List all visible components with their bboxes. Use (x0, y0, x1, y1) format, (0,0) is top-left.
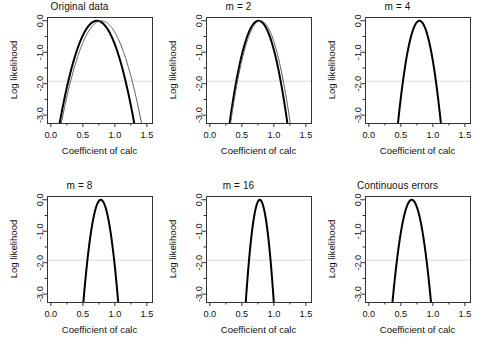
x-tick-label: 1.5 (458, 309, 471, 319)
x-axis-label: Coefficient of calc (221, 145, 297, 156)
loglik-curve (58, 21, 137, 130)
plot-top-spacer (318, 179, 477, 196)
x-axis-label: Coefficient of calc (62, 324, 138, 335)
y-axis: 0.0-1.0-2.0-3.0 (35, 14, 47, 123)
plot-panel: m = 40.00.51.01.50.0-1.0-2.0-3.00.00.51.… (318, 0, 477, 179)
x-tick-label: 1.0 (426, 130, 439, 140)
loglik-curve (397, 21, 442, 130)
x-tick-label: 1.0 (108, 130, 121, 140)
y-tick-label: 0.0 (194, 14, 204, 27)
x-axis-label: Coefficient of calc (221, 324, 297, 335)
y-axis-label: Log likelihood (167, 220, 178, 279)
x-tick-label: 0.0 (203, 130, 216, 140)
y-axis-label: Log likelihood (167, 41, 178, 100)
plot-panel: Original data0.00.51.01.50.0-1.0-2.0-3.0… (0, 0, 159, 179)
plot-top-spacer (318, 0, 477, 17)
x-tick-label: 0.0 (362, 130, 375, 140)
x-tick-label: 0.5 (76, 309, 89, 319)
x-tick-label: 1.5 (140, 130, 153, 140)
y-axis: 0.0-1.0-2.0-3.0 (353, 14, 365, 123)
y-tick-label: 0.0 (194, 193, 204, 206)
plot-panel: m = 80.00.51.01.50.0-1.0-2.0-3.00.00.51.… (0, 179, 159, 359)
y-tick-label: -3.0 (35, 107, 45, 123)
x-tick-label: 1.5 (299, 130, 312, 140)
x-tick-label: 0.5 (235, 130, 248, 140)
panel-plot: 0.00.51.01.50.0-1.0-2.0-3.00.00.51.01.5C… (0, 0, 159, 179)
x-tick-label: 1.0 (426, 309, 439, 319)
panel-plot: 0.00.51.01.50.0-1.0-2.0-3.00.00.51.01.5C… (0, 179, 159, 358)
x-tick-label: 1.5 (140, 309, 153, 319)
x-tick-label: 1.0 (108, 309, 121, 319)
y-tick-label: -1.0 (35, 44, 45, 60)
plot-panel: m = 20.00.51.01.50.0-1.0-2.0-3.00.00.51.… (159, 0, 318, 179)
loglik-curve (229, 21, 292, 130)
y-tick-label: -2.0 (353, 255, 363, 271)
plot-box (207, 197, 312, 303)
y-tick-label: -1.0 (194, 223, 204, 239)
y-tick-label: 0.0 (35, 14, 45, 27)
y-tick-label: 0.0 (353, 14, 363, 27)
loglik-curve (228, 21, 289, 130)
x-tick-label: 1.0 (267, 130, 280, 140)
x-tick-label: 0.0 (362, 309, 375, 319)
plot-box (207, 18, 312, 124)
y-tick-label: -1.0 (353, 44, 363, 60)
x-tick-label: 0.5 (76, 130, 89, 140)
y-axis: 0.0-1.0-2.0-3.0 (194, 14, 206, 123)
x-tick-label: 0.5 (235, 309, 248, 319)
y-tick-label: -2.0 (194, 76, 204, 92)
x-tick-label: 1.5 (458, 130, 471, 140)
y-axis-label: Log likelihood (8, 41, 19, 100)
plot-top-spacer (0, 0, 159, 17)
plot-top-spacer (159, 179, 318, 196)
y-tick-label: -3.0 (35, 286, 45, 302)
plot-box (48, 197, 153, 303)
x-tick-label: 0.5 (394, 309, 407, 319)
y-tick-label: -1.0 (194, 44, 204, 60)
y-axis-label: Log likelihood (8, 220, 19, 279)
y-tick-label: -3.0 (353, 107, 363, 123)
panel-plot: 0.00.51.01.50.0-1.0-2.0-3.00.00.51.01.5C… (159, 179, 318, 358)
y-tick-label: -1.0 (353, 223, 363, 239)
x-tick-label: 1.5 (299, 309, 312, 319)
loglik-curve (392, 200, 432, 309)
y-tick-label: -2.0 (35, 76, 45, 92)
figure-grid: Original data0.00.51.01.50.0-1.0-2.0-3.0… (0, 0, 477, 359)
x-axis-label: Coefficient of calc (380, 145, 456, 156)
y-tick-label: -2.0 (194, 255, 204, 271)
y-tick-label: 0.0 (353, 193, 363, 206)
y-tick-label: 0.0 (35, 193, 45, 206)
y-tick-label: -3.0 (194, 107, 204, 123)
y-axis: 0.0-1.0-2.0-3.0 (194, 193, 206, 302)
x-tick-label: 0.5 (394, 130, 407, 140)
y-axis: 0.0-1.0-2.0-3.0 (35, 193, 47, 302)
y-tick-label: -2.0 (35, 255, 45, 271)
plot-box (366, 18, 471, 124)
y-tick-label: -2.0 (353, 76, 363, 92)
plot-panel: m = 160.00.51.01.50.0-1.0-2.0-3.00.00.51… (159, 179, 318, 359)
loglik-curve (245, 200, 274, 309)
plot-panel: Continuous errors0.00.51.01.50.0-1.0-2.0… (318, 179, 477, 359)
x-tick-label: 0.0 (44, 309, 57, 319)
y-tick-label: -3.0 (194, 286, 204, 302)
panel-plot: 0.00.51.01.50.0-1.0-2.0-3.00.00.51.01.5C… (159, 0, 318, 179)
x-tick-label: 0.0 (203, 309, 216, 319)
plot-top-spacer (159, 0, 318, 17)
y-tick-label: -3.0 (353, 286, 363, 302)
x-tick-label: 0.0 (44, 130, 57, 140)
y-axis-label: Log likelihood (326, 41, 337, 100)
y-axis: 0.0-1.0-2.0-3.0 (353, 193, 365, 302)
loglik-curve (59, 21, 143, 130)
x-axis-label: Coefficient of calc (380, 324, 456, 335)
y-tick-label: -1.0 (35, 223, 45, 239)
x-tick-label: 1.0 (267, 309, 280, 319)
plot-top-spacer (0, 179, 159, 196)
panel-plot: 0.00.51.01.50.0-1.0-2.0-3.00.00.51.01.5C… (318, 0, 477, 179)
y-axis-label: Log likelihood (326, 220, 337, 279)
loglik-curve (83, 200, 119, 309)
x-axis-label: Coefficient of calc (62, 145, 138, 156)
panel-plot: 0.00.51.01.50.0-1.0-2.0-3.00.00.51.01.5C… (318, 179, 477, 358)
